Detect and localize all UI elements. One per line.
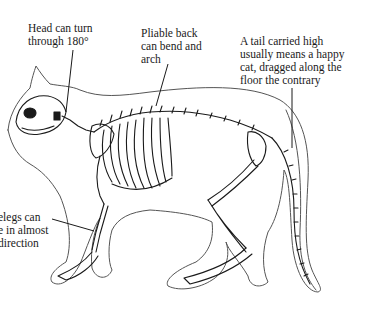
ribcage <box>102 118 172 189</box>
legs-label-line-3: direction <box>0 237 48 250</box>
back-label-line-2: can bend and <box>141 40 202 53</box>
back-label-line-3: arch <box>141 53 202 66</box>
tail-label: A tail carried high usually means a happ… <box>240 35 344 87</box>
pliable-back-label: Pliable back can bend and arch <box>141 27 202 66</box>
body-outline <box>8 66 320 292</box>
legs-label-line-2: e in almost <box>0 224 48 237</box>
head-label-line-1: Head can turn <box>28 22 93 35</box>
tail-label-line-2: usually means a happy <box>240 48 344 61</box>
legs-leader-line <box>52 219 94 231</box>
tail-label-line-3: cat, dragged along the <box>240 61 344 74</box>
back-label-line-1: Pliable back <box>141 27 202 40</box>
cat-skeleton-diagram: Head can turn through 180° Pliable back … <box>0 0 373 316</box>
hind-upper-leg <box>208 160 258 206</box>
head-rotation-label: Head can turn through 180° <box>28 22 93 48</box>
neck-vertebrae <box>62 116 94 132</box>
back-leader-line <box>156 64 168 106</box>
head-label-line-2: through 180° <box>28 35 93 48</box>
tail-label-line-4: floor the contrary <box>240 74 344 87</box>
legs-label-line-1: elegs can <box>0 211 48 224</box>
pelvis <box>247 132 266 166</box>
front-upper-leg <box>97 156 104 204</box>
tail-label-line-1: A tail carried high <box>240 35 344 48</box>
forelegs-label: elegs can e in almost direction <box>0 211 48 250</box>
head-leader-line <box>66 50 73 112</box>
